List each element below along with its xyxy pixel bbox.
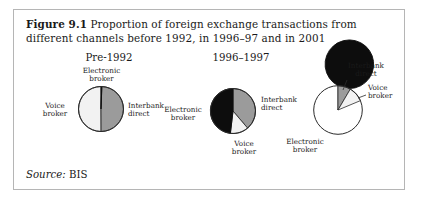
label-electronic-broker-2001: Electronic broker [280, 138, 330, 155]
figure-frame: Figure 9.1 Proportion of foreign exchang… [13, 9, 405, 190]
slice-electronic-broker [210, 88, 233, 133]
label-voice-broker-2001: Voice broker [368, 84, 416, 101]
pie-panel-2001: 2001 Interbank direct Voice broker Elect… [294, 52, 423, 177]
label-voice-broker-1996-1997: Voice broker [222, 140, 266, 157]
label-voice-broker-pre-1992: Voice broker [34, 102, 76, 119]
slice-voice-broker [79, 87, 102, 132]
label-line-2: broker [34, 110, 76, 118]
label-line-2: broker [64, 75, 139, 83]
label-electronic-broker-1996-1997: Electronic broker [160, 106, 206, 123]
label-interbank-direct-2001: Interbank direct [336, 62, 396, 79]
pie-chart-1996-1997 [209, 87, 257, 135]
source-line: Source: BIS [26, 169, 87, 180]
figure-number: Figure 9.1 [26, 18, 87, 30]
label-line-2: broker [368, 92, 416, 100]
label-line-2: direct [336, 70, 396, 78]
pie-title-pre-1992: Pre-1992 [34, 52, 184, 63]
leader-line-voice-broker [358, 95, 366, 98]
label-line-2: broker [280, 146, 330, 154]
label-line-2: broker [222, 148, 266, 156]
source-label: Source: [26, 169, 66, 180]
label-electronic-broker-pre-1992: Electronic broker [64, 67, 139, 84]
figure-caption: Figure 9.1 Proportion of foreign exchang… [26, 17, 394, 45]
label-line-2: broker [160, 114, 206, 122]
pie-chart-2001 [310, 82, 366, 138]
pie-chart-pre-1992 [77, 85, 125, 133]
slice-interbank-direct [101, 87, 123, 132]
source-value: BIS [69, 169, 88, 180]
